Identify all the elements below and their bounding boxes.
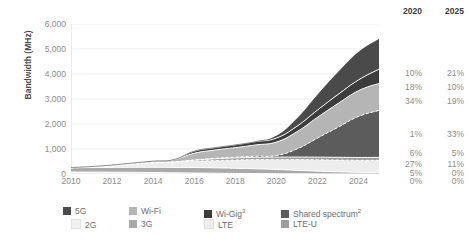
legend-item-lte-u[interactable]: LTE-U <box>281 219 317 230</box>
stacked-area-svg <box>71 24 379 174</box>
chart-legend: 5GWi-FiWi-Gig3Shared spectrum22G3GLTELTE… <box>63 206 403 236</box>
share-table-row: 10%21% <box>388 68 466 79</box>
share-table-row: 6%5% <box>388 148 466 159</box>
share-table-row: 1%33% <box>388 129 466 140</box>
x-tick-label: 2020 <box>267 176 286 186</box>
share-value-2025: 0% <box>430 176 464 186</box>
legend-swatch <box>63 207 71 215</box>
y-tick-label: 2,000 <box>45 119 66 129</box>
bandwidth-stacked-area-chart: Bandwidth (MHz) 01,0002,0003,0004,0005,0… <box>0 0 469 249</box>
legend-swatch <box>71 219 81 229</box>
legend-label: 2G <box>85 220 96 230</box>
legend-swatch <box>281 220 289 228</box>
x-axis-tick-labels: 20102012201420162018202020222024 <box>71 176 379 190</box>
legend-footnote-marker: 2 <box>358 208 361 214</box>
legend-label: Wi-Gig3 <box>216 209 245 219</box>
legend-item-wi-fi[interactable]: Wi-Fi <box>129 206 161 217</box>
share-table: 2020 2025 10%21%18%10%34%19%1%33%6%5%27%… <box>388 6 466 186</box>
legend-swatch <box>204 210 212 218</box>
share-value-2020: 0% <box>388 176 422 186</box>
y-tick-label: 1,000 <box>45 144 66 154</box>
share-header-2025: 2025 <box>430 6 464 16</box>
share-value-2020: 10% <box>388 68 422 78</box>
x-tick-label: 2014 <box>144 176 163 186</box>
legend-label: Wi-Fi <box>141 206 161 216</box>
x-tick-label: 2018 <box>226 176 245 186</box>
share-value-2025: 21% <box>430 68 464 78</box>
y-tick-label: 5,000 <box>45 44 66 54</box>
legend-item-lte[interactable]: LTE <box>204 219 233 231</box>
share-table-row: 18%10% <box>388 82 466 93</box>
legend-label: LTE <box>218 220 233 230</box>
share-value-2025: 19% <box>430 96 464 106</box>
share-value-2025: 33% <box>430 129 464 139</box>
legend-label: 5G <box>75 206 86 216</box>
legend-item-wi-gig[interactable]: Wi-Gig3 <box>204 206 245 220</box>
share-value-2020: 34% <box>388 96 422 106</box>
legend-label: 3G <box>141 219 152 229</box>
x-tick-label: 2024 <box>349 176 368 186</box>
y-tick-label: 3,000 <box>45 94 66 104</box>
legend-swatch <box>129 220 137 228</box>
x-tick-label: 2012 <box>103 176 122 186</box>
legend-item-3g[interactable]: 3G <box>129 219 152 230</box>
share-table-row: 34%19% <box>388 96 466 107</box>
y-axis-tick-labels: 01,0002,0003,0004,0005,0006,000 <box>14 0 70 185</box>
legend-swatch <box>129 207 137 215</box>
legend-footnote-marker: 3 <box>242 208 245 214</box>
x-tick-label: 2022 <box>308 176 327 186</box>
y-tick-label: 6,000 <box>45 19 66 29</box>
legend-item-5g[interactable]: 5G <box>63 206 86 217</box>
legend-swatch <box>204 219 214 229</box>
plot-area <box>71 24 379 174</box>
legend-swatch <box>281 210 289 218</box>
share-value-2020: 18% <box>388 82 422 92</box>
share-header-2020: 2020 <box>388 6 422 16</box>
share-value-2020: 6% <box>388 148 422 158</box>
x-tick-label: 2016 <box>185 176 204 186</box>
legend-label: LTE-U <box>293 219 317 229</box>
legend-label: Shared spectrum2 <box>293 209 361 219</box>
share-value-2025: 5% <box>430 148 464 158</box>
x-tick-label: 2010 <box>62 176 81 186</box>
share-value-2025: 10% <box>430 82 464 92</box>
y-tick-label: 4,000 <box>45 69 66 79</box>
legend-item-shared-spectrum[interactable]: Shared spectrum2 <box>281 206 361 220</box>
legend-item-2g[interactable]: 2G <box>71 219 96 231</box>
share-table-row: 0%0% <box>388 176 466 187</box>
share-value-2020: 1% <box>388 129 422 139</box>
